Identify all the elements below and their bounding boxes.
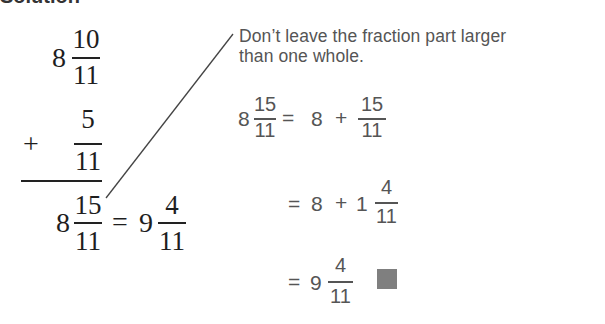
note-line-1: Don’t leave the fraction part larger — [239, 26, 506, 46]
step1-term: 8 — [311, 109, 323, 129]
step3-numerator: 4 — [328, 256, 353, 274]
step3-equals: = — [288, 272, 300, 292]
step1-denominator: 11 — [358, 121, 386, 139]
step1-plus: + — [335, 108, 347, 128]
step2-equals: = — [288, 194, 300, 214]
step3-denominator: 11 — [328, 287, 353, 305]
step1-lhs-numerator: 15 — [252, 95, 278, 113]
step1-lhs-whole: 8 — [238, 109, 250, 129]
step2-plus: + — [335, 193, 347, 213]
end-of-solution-square-icon — [377, 269, 397, 289]
step2-term: 8 — [311, 194, 323, 214]
step2-numerator: 4 — [374, 178, 399, 196]
step2-denominator: 11 — [374, 207, 399, 225]
step3-mixed-whole: 9 — [310, 273, 322, 293]
step3-fraction-bar — [328, 281, 353, 283]
step1-lhs-denominator: 11 — [252, 121, 278, 139]
step2-fraction-bar — [375, 202, 398, 204]
step2-mixed-whole: 1 — [356, 194, 368, 214]
note-line-2: than one whole. — [239, 46, 364, 66]
step1-numerator: 15 — [358, 95, 386, 113]
step1-equals: = — [282, 108, 294, 128]
